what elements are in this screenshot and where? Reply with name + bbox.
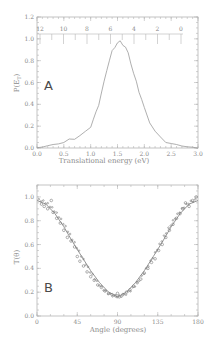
data-point — [79, 260, 82, 263]
data-point-dense — [107, 293, 109, 295]
x-tick-label: 90 — [114, 318, 122, 325]
secondary-tick-label: 12 — [36, 25, 44, 32]
x-tick-label: 0.5 — [59, 150, 69, 157]
secondary-tick-label: 2 — [156, 25, 160, 32]
secondary-tick-label: 4 — [132, 25, 136, 32]
data-point-dense — [136, 281, 138, 283]
data-point-dense — [56, 212, 58, 214]
x-tick-label: 1.5 — [113, 150, 123, 157]
plot-frame — [37, 17, 198, 148]
panel-label-b: B — [44, 280, 53, 295]
data-point-dense — [141, 275, 143, 277]
y-tick-label: 1.0 — [24, 35, 34, 42]
data-point-dense — [67, 231, 69, 233]
data-point-dense — [40, 201, 42, 203]
data-point-dense — [58, 217, 60, 219]
data-point-dense — [125, 294, 127, 296]
data-point-dense — [172, 220, 174, 222]
data-point — [66, 236, 69, 239]
data-point-dense — [127, 291, 129, 293]
data-point — [40, 203, 43, 206]
x-tick-label: 3.0 — [193, 150, 203, 157]
data-point — [89, 275, 92, 278]
data-point-dense — [148, 266, 150, 268]
y-tick-label: 0.6 — [24, 79, 34, 86]
y-tick-label: 0.2 — [24, 122, 34, 129]
data-point-dense — [72, 239, 74, 241]
data-point-dense — [43, 200, 45, 202]
chart-panel-b: 0.00.20.40.60.81.004590135180BAngle (deg… — [0, 170, 210, 343]
fit-curve — [37, 201, 198, 297]
data-point-dense — [78, 250, 80, 252]
data-point-dense — [168, 227, 170, 229]
secondary-tick-label: 0 — [179, 25, 183, 32]
x-tick-label: 135 — [152, 318, 164, 325]
data-point-dense — [183, 207, 185, 209]
data-point — [154, 258, 157, 261]
data-point-dense — [74, 241, 76, 243]
y-tick-label: 0.6 — [24, 241, 34, 248]
x-axis-title: Angle (degrees) — [89, 326, 147, 334]
energy-distribution-plot: 0.00.20.40.60.81.01.20.00.51.01.52.02.53… — [0, 0, 210, 170]
data-point-dense — [177, 213, 179, 215]
data-point-dense — [60, 218, 62, 220]
x-tick-label: 0.0 — [32, 150, 42, 157]
data-point-dense — [170, 225, 172, 227]
data-point-dense — [96, 280, 98, 282]
x-tick-label: 2.0 — [140, 150, 150, 157]
y-tick-label: 0.0 — [24, 312, 34, 319]
panel-label-a: A — [44, 78, 53, 93]
x-tick-label: 1.0 — [86, 150, 96, 157]
y-tick-label: 0.4 — [24, 100, 34, 107]
data-point-dense — [47, 202, 49, 204]
y-tick-label: 1.0 — [24, 193, 34, 200]
data-point — [76, 255, 79, 258]
data-point-dense — [112, 296, 114, 298]
secondary-tick-label: 8 — [85, 25, 89, 32]
energy-distribution-curve — [37, 41, 198, 148]
x-tick-label: 180 — [192, 318, 204, 325]
angular-distribution-plot: 0.00.20.40.60.81.004590135180BAngle (deg… — [0, 170, 210, 343]
data-point — [86, 271, 89, 274]
y-tick-label: 0.8 — [24, 57, 34, 64]
y-axis-title: P(ET) — [13, 73, 22, 92]
data-point-dense — [161, 241, 163, 243]
data-point — [63, 229, 66, 232]
y-tick-label: 0.8 — [24, 217, 34, 224]
data-point — [116, 292, 119, 295]
data-point-dense — [195, 199, 197, 201]
data-point-dense — [69, 233, 71, 235]
data-point-dense — [163, 235, 165, 237]
y-tick-label: 1.2 — [24, 13, 34, 20]
data-point — [50, 199, 53, 202]
secondary-tick-label: 10 — [60, 25, 68, 32]
x-tick-label: 0 — [35, 318, 39, 325]
data-point-dense — [92, 274, 94, 276]
data-point-dense — [179, 212, 181, 214]
data-point-dense — [159, 243, 161, 245]
data-point-dense — [190, 200, 192, 202]
data-point-dense — [116, 297, 118, 299]
secondary-tick-label: 6 — [109, 25, 113, 32]
data-point — [43, 205, 46, 208]
chart-panel-a: 0.00.20.40.60.81.01.20.00.51.01.52.02.53… — [0, 0, 210, 170]
y-tick-label: 0.4 — [24, 264, 34, 271]
data-point — [188, 205, 191, 208]
data-point — [82, 265, 85, 268]
data-point-dense — [105, 290, 107, 292]
data-point-dense — [154, 252, 156, 254]
x-tick-label: 45 — [73, 318, 81, 325]
x-tick-label: 2.5 — [166, 150, 176, 157]
data-point-dense — [152, 258, 154, 260]
x-axis-title: Translational energy (eV) — [59, 157, 150, 165]
data-point — [46, 208, 49, 211]
y-tick-label: 0.2 — [24, 288, 34, 295]
data-point-dense — [65, 225, 67, 227]
data-point-dense — [143, 273, 145, 275]
data-point-dense — [85, 264, 87, 266]
data-point-dense — [89, 272, 91, 274]
data-point-dense — [51, 207, 53, 209]
data-point-dense — [139, 280, 141, 282]
y-axis-title: T(θ) — [13, 250, 21, 265]
data-point-dense — [121, 296, 123, 298]
